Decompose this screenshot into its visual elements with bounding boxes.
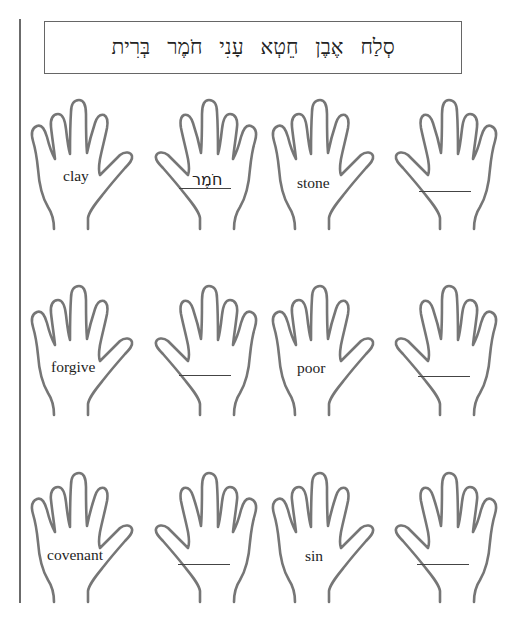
word-bank-box: בְּרִית חֹמֶר עָנִי חֵטְא אֶבֶן סְלַח	[44, 21, 462, 74]
hand-icon	[146, 97, 261, 232]
left-hand-outline	[271, 470, 386, 605]
english-word: sin	[305, 547, 323, 565]
hand-icon	[271, 97, 386, 232]
right-hand-outline	[386, 470, 501, 605]
word-bank-item: בְּרִית	[111, 35, 150, 60]
english-word: stone	[297, 174, 330, 192]
answer-blank[interactable]	[417, 564, 469, 565]
left-hand-outline	[30, 97, 145, 232]
answer-blank[interactable]	[419, 191, 471, 192]
right-hand-outline	[146, 97, 261, 232]
english-word: forgive	[51, 358, 95, 376]
left-hand-outline	[271, 97, 386, 232]
left-hand-outline	[30, 283, 145, 418]
hand-icon	[386, 470, 501, 605]
word-bank-item: עָנִי	[219, 35, 243, 60]
hand-icon	[146, 470, 261, 605]
answer-blank[interactable]	[179, 188, 231, 189]
hand-icon	[386, 97, 501, 232]
answer-blank[interactable]	[418, 376, 470, 377]
hand-icon	[271, 470, 386, 605]
right-hand-outline	[386, 283, 501, 418]
word-bank-item: סְלַח	[360, 35, 394, 60]
hebrew-answer: חֹמֶר	[192, 170, 222, 189]
right-hand-outline	[146, 470, 261, 605]
hand-icon	[271, 283, 386, 418]
english-word: covenant	[47, 546, 103, 564]
right-hand-outline	[146, 283, 261, 418]
answer-blank[interactable]	[178, 564, 230, 565]
word-bank-item: חֹמֶר	[167, 35, 202, 60]
english-word: clay	[63, 167, 89, 185]
word-bank: בְּרִית חֹמֶר עָנִי חֵטְא אֶבֶן סְלַח	[111, 35, 394, 60]
left-hand-outline	[271, 283, 386, 418]
english-word: poor	[297, 359, 325, 377]
left-hand-outline	[30, 470, 145, 605]
hand-icon	[386, 283, 501, 418]
right-hand-outline	[386, 97, 501, 232]
hand-icon	[30, 283, 145, 418]
hand-icon	[30, 97, 145, 232]
word-bank-item: חֵטְא	[261, 35, 299, 60]
hand-icon	[146, 283, 261, 418]
hand-icon	[30, 470, 145, 605]
margin-rule	[19, 19, 21, 603]
answer-blank[interactable]	[179, 375, 231, 376]
word-bank-item: אֶבֶן	[315, 35, 343, 60]
